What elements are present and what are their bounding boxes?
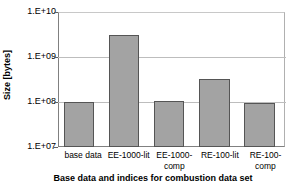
bar-chart: Size [bytes] 1.E+10 1.E+09 1.E+08 1.E+07 (0, 0, 295, 188)
bars-container (59, 13, 285, 147)
y-tickmark (54, 12, 58, 13)
bar-ee-1000-lit[interactable] (109, 35, 140, 147)
x-tick-line: comp (142, 161, 206, 172)
y-tickmark (54, 102, 58, 103)
bar-ee-1000-comp[interactable] (154, 101, 185, 147)
x-tick-line: comp (234, 161, 295, 172)
bar-base-data[interactable] (64, 102, 95, 147)
bar-slot (109, 13, 140, 147)
y-tick-label: 1.E+10 (12, 6, 56, 17)
y-tickmark (54, 147, 58, 148)
y-tick-label: 1.E+08 (12, 96, 56, 107)
y-tick-label: 1.E+09 (12, 51, 56, 62)
bar-slot (64, 13, 95, 147)
x-tick-label-re-100-comp: RE-100- comp (234, 150, 295, 172)
x-tick-line: RE-100- (234, 150, 295, 161)
bar-re-100-comp[interactable] (244, 103, 275, 147)
bar-slot (244, 13, 275, 147)
y-axis-tick-labels: 1.E+10 1.E+09 1.E+08 1.E+07 (10, 0, 56, 188)
x-axis-title: Base data and indices for combustion dat… (20, 173, 286, 183)
bar-slot (154, 13, 185, 147)
bar-re-100-lit[interactable] (199, 79, 230, 147)
y-tickmark (54, 57, 58, 58)
bar-slot (199, 13, 230, 147)
y-tick-label: 1.E+07 (12, 141, 56, 152)
